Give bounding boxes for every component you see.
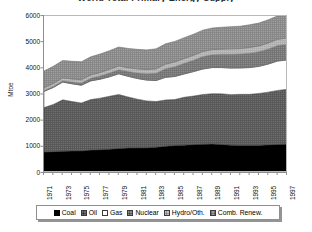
x-tick-1985: 1985 bbox=[177, 186, 184, 200]
legend-label: Gas bbox=[110, 209, 122, 216]
legend-swatch-icon bbox=[102, 210, 108, 216]
legend-swatch-icon bbox=[210, 210, 216, 216]
stacked-area-series bbox=[44, 16, 287, 172]
y-tick-4000: 4000 bbox=[16, 64, 40, 71]
x-tick-1993: 1993 bbox=[252, 186, 259, 200]
legend-label: Comb. Renew. bbox=[218, 209, 263, 216]
y-axis-tick-labels: 0100020003000400050006000 bbox=[14, 0, 40, 232]
y-tick-5000: 5000 bbox=[16, 38, 40, 45]
legend-swatch-icon bbox=[54, 210, 60, 216]
legend-label: Nuclear bbox=[135, 209, 158, 216]
y-tick-1000: 1000 bbox=[16, 142, 40, 149]
legend-item-comb-renew[interactable]: Comb. Renew. bbox=[210, 209, 263, 216]
y-tick-2000: 2000 bbox=[16, 116, 40, 123]
y-tick-3000: 3000 bbox=[16, 90, 40, 97]
chart-legend: CoalOilGasNuclearHydro/Oth.Comb. Renew. bbox=[36, 205, 280, 220]
y-tick-0: 0 bbox=[16, 169, 40, 176]
x-tick-1973: 1973 bbox=[65, 186, 72, 200]
y-axis-title: Mtoe bbox=[7, 70, 14, 110]
chart-title: World Total Primary Energy Supply bbox=[0, 0, 312, 2]
legend-item-gas[interactable]: Gas bbox=[102, 209, 122, 216]
x-tick-1971: 1971 bbox=[46, 186, 53, 200]
x-tick-1989: 1989 bbox=[214, 186, 221, 200]
x-tick-1997: 1997 bbox=[289, 186, 296, 200]
x-tick-1983: 1983 bbox=[158, 186, 165, 200]
x-tick-1977: 1977 bbox=[102, 186, 109, 200]
energy-supply-area-chart: World Total Primary Energy Supply Mtoe 0… bbox=[0, 0, 312, 232]
y-tick-6000: 6000 bbox=[16, 12, 40, 19]
x-tick-1981: 1981 bbox=[140, 186, 147, 200]
x-tick-1991: 1991 bbox=[233, 186, 240, 200]
legend-item-oil[interactable]: Oil bbox=[81, 209, 97, 216]
legend-label: Hydro/Oth. bbox=[172, 209, 205, 216]
x-tick-1979: 1979 bbox=[121, 186, 128, 200]
legend-label: Coal bbox=[62, 209, 76, 216]
x-axis-tick-labels: 1971197319751977197919811983198519871989… bbox=[43, 174, 287, 204]
x-tick-1995: 1995 bbox=[270, 186, 277, 200]
legend-item-coal[interactable]: Coal bbox=[54, 209, 76, 216]
legend-swatch-icon bbox=[127, 210, 133, 216]
plot-area bbox=[43, 15, 287, 172]
legend-label: Oil bbox=[89, 209, 97, 216]
legend-swatch-icon bbox=[81, 210, 87, 216]
x-tick-1975: 1975 bbox=[83, 186, 90, 200]
legend-item-nuclear[interactable]: Nuclear bbox=[127, 209, 158, 216]
x-tick-1987: 1987 bbox=[196, 186, 203, 200]
legend-item-hydro-oth[interactable]: Hydro/Oth. bbox=[164, 209, 205, 216]
legend-swatch-icon bbox=[164, 210, 170, 216]
